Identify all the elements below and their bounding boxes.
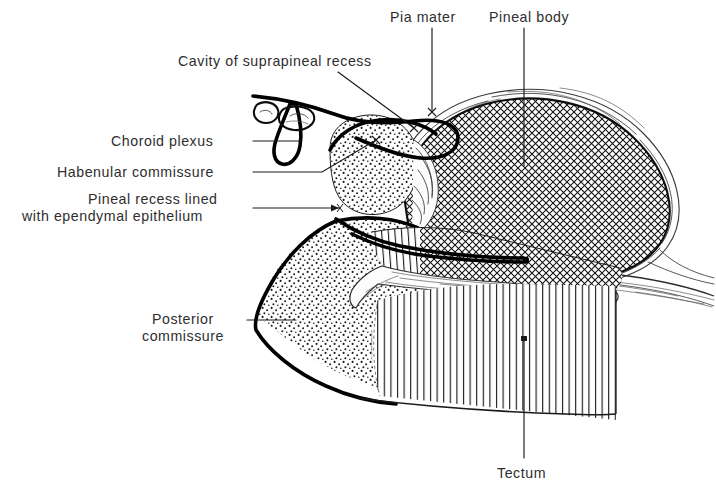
figure-canvas: Pia mater Pineal body Cavity of suprapin… <box>0 0 716 501</box>
habenular-commissure-structure <box>330 115 418 215</box>
label-cavity-of-suprapineal-recess: Cavity of suprapineal recess <box>178 53 372 69</box>
label-choroid-plexus: Choroid plexus <box>111 133 213 149</box>
label-habenular-commissure: Habenular commissure <box>57 164 214 180</box>
label-pineal-recess-line2: with ependymal epithelium <box>21 208 203 224</box>
label-posterior-commissure-line2: commissure <box>142 328 224 344</box>
anatomical-figure: Pia mater Pineal body Cavity of suprapin… <box>0 0 716 501</box>
label-tectum: Tectum <box>497 465 546 481</box>
label-posterior-commissure-line1: Posterior <box>152 311 214 327</box>
label-pia-mater: Pia mater <box>390 9 456 25</box>
label-pineal-recess-line1: Pineal recess lined <box>88 191 218 207</box>
label-pineal-body: Pineal body <box>489 9 570 25</box>
